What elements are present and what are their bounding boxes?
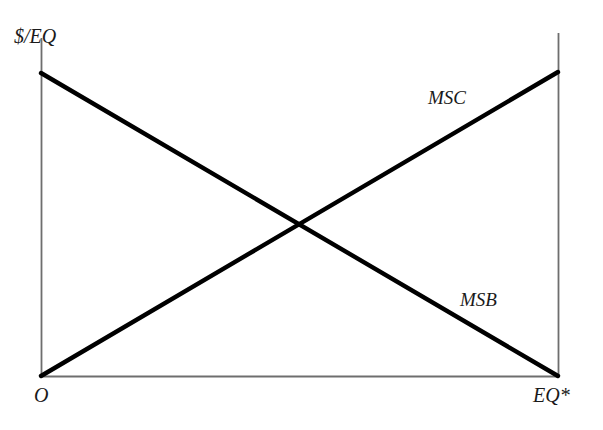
plot-area (0, 0, 603, 430)
y-axis-label: $/EQ (14, 26, 56, 46)
x-axis-label: EQ* (533, 385, 570, 405)
msc-curve-label: MSC (428, 88, 466, 107)
origin-label: O (34, 385, 48, 405)
msb-curve-label: MSB (460, 290, 497, 309)
economics-diagram: $/EQ O EQ* MSC MSB (0, 0, 603, 430)
